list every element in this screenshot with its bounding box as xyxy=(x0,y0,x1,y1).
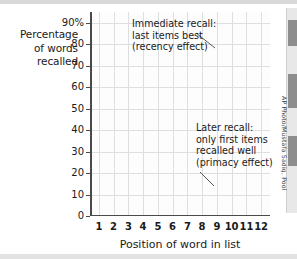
annotation-later-line-1: Later recall: xyxy=(196,122,273,134)
gridline-horizontal xyxy=(90,87,270,88)
x-axis-line xyxy=(90,215,270,217)
y-tick-mark xyxy=(86,130,90,131)
y-tick-label: 0 xyxy=(50,211,84,221)
annotation-immediate-line-2: last items best xyxy=(132,30,216,42)
y-axis-line xyxy=(90,12,92,216)
y-tick-label: 80 xyxy=(50,39,84,49)
annotation-later-recall: Later recall: only first items recalled … xyxy=(196,122,273,168)
gridline-horizontal xyxy=(90,66,270,67)
y-tick-label: 60 xyxy=(50,82,84,92)
photo-credit: AP Photo/Mustafa Sadiq, Pool xyxy=(281,96,288,206)
y-tick-mark xyxy=(86,195,90,196)
page-edge-blot xyxy=(288,74,297,108)
x-tick-label: 12 xyxy=(252,222,270,232)
y-tick-mark xyxy=(86,66,90,67)
y-tick-mark xyxy=(86,173,90,174)
x-axis-title: Position of word in list xyxy=(90,238,270,251)
gridline-horizontal xyxy=(90,109,270,110)
page-edge-blot xyxy=(288,136,297,166)
y-tick-label: 20 xyxy=(50,168,84,178)
y-tick-label: 90% xyxy=(50,18,84,28)
annotation-later-line-2: only first items xyxy=(196,134,273,146)
scan-edge-bottom xyxy=(0,254,297,259)
gridline-horizontal xyxy=(90,195,270,196)
gridline-vertical xyxy=(261,12,262,216)
y-tick-mark xyxy=(86,44,90,45)
gridline-vertical xyxy=(99,12,100,216)
y-tick-label: 30 xyxy=(50,147,84,157)
y-tick-label: 70 xyxy=(50,61,84,71)
y-tick-label: 10 xyxy=(50,190,84,200)
y-tick-mark xyxy=(86,23,90,24)
gridline-vertical xyxy=(246,12,247,216)
y-tick-mark xyxy=(86,152,90,153)
gridline-vertical xyxy=(232,12,233,216)
scan-edge-top xyxy=(0,0,297,4)
gridline-vertical xyxy=(114,12,115,216)
annotation-immediate-line-3: (recency effect) xyxy=(132,41,216,53)
page-edge-blot xyxy=(288,20,297,46)
serial-position-curve-figure: Percentage of words recalled 01020304050… xyxy=(0,0,297,259)
y-tick-label: 50 xyxy=(50,104,84,114)
y-tick-mark xyxy=(86,216,90,217)
annotation-immediate-recall: Immediate recall: last items best (recen… xyxy=(132,18,216,53)
y-tick-label: 40 xyxy=(50,125,84,135)
annotation-later-line-3: recalled well xyxy=(196,145,273,157)
gridline-horizontal xyxy=(90,173,270,174)
annotation-later-line-4: (primacy effect) xyxy=(196,157,273,169)
gridline-vertical xyxy=(217,12,218,216)
gridline-vertical xyxy=(128,12,129,216)
y-tick-mark xyxy=(86,109,90,110)
annotation-immediate-line-1: Immediate recall: xyxy=(132,18,216,30)
y-tick-mark xyxy=(86,87,90,88)
